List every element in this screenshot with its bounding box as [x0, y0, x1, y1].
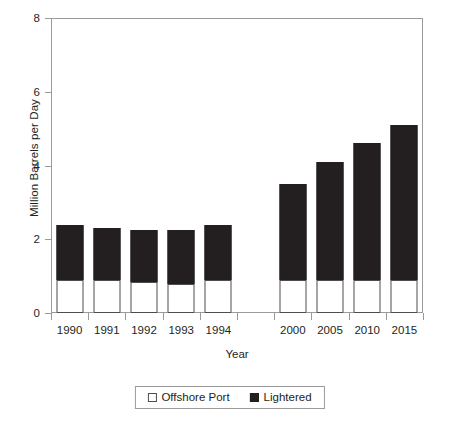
bar-segment-lightered [93, 228, 120, 280]
y-tick-label: 4 [0, 160, 40, 172]
bar-group [88, 18, 125, 313]
x-tick-label: 2015 [392, 324, 418, 336]
stacked-bar-chart: Million Barrels per Day 02468 1990199119… [0, 0, 459, 428]
bar-segment-offshore-port [316, 280, 343, 313]
bar-segment-offshore-port [279, 280, 306, 313]
bar-segment-lightered [391, 125, 418, 280]
bar-segment-lightered [279, 184, 306, 280]
bar-segment-offshore-port [130, 282, 157, 313]
x-tick-mark [311, 313, 312, 320]
bar-group [125, 18, 162, 313]
x-tick-mark [237, 313, 238, 320]
bar-group [349, 18, 386, 313]
x-tick-mark [386, 313, 387, 320]
open-square-icon [147, 393, 156, 402]
bar-group [386, 18, 423, 313]
chart-legend: Offshore PortLightered [134, 386, 324, 409]
filled-square-icon [250, 393, 259, 402]
bar-segment-offshore-port [354, 280, 381, 313]
bar-group [163, 18, 200, 313]
bar-segment-offshore-port [205, 280, 232, 313]
x-tick-mark [88, 313, 89, 320]
x-tick-label: 1990 [57, 324, 83, 336]
bar-segment-offshore-port [391, 280, 418, 313]
x-tick-label: 1994 [206, 324, 232, 336]
y-tick-label: 2 [0, 233, 40, 245]
y-tick-label: 8 [0, 12, 40, 24]
x-tick-label: 1992 [131, 324, 157, 336]
bar-segment-lightered [354, 143, 381, 279]
x-tick-label: 2000 [280, 324, 306, 336]
x-tick-mark [163, 313, 164, 320]
x-tick-label: 2010 [354, 324, 380, 336]
bar-segment-offshore-port [168, 284, 195, 314]
legend-item: Offshore Port [147, 391, 229, 403]
x-tick-mark [200, 313, 201, 320]
bar-group [311, 18, 348, 313]
bar-segment-lightered [316, 162, 343, 280]
bar-segment-offshore-port [56, 280, 83, 313]
x-tick-mark [274, 313, 275, 320]
y-tick-label: 0 [0, 307, 40, 319]
y-tick-label: 6 [0, 86, 40, 98]
x-tick-label: 1993 [168, 324, 194, 336]
y-axis-ticks: 02468 [0, 0, 51, 428]
bar-segment-lightered [168, 230, 195, 283]
legend-item-label: Offshore Port [161, 391, 229, 403]
bar-group [274, 18, 311, 313]
bar-group [200, 18, 237, 313]
x-tick-label: 2005 [317, 324, 343, 336]
legend-item-label: Lightered [264, 391, 312, 403]
x-tick-mark [51, 313, 52, 320]
x-tick-mark [423, 313, 424, 320]
bars-layer [51, 18, 423, 313]
x-tick-mark [125, 313, 126, 320]
bar-segment-lightered [130, 230, 157, 282]
legend-item: Lightered [250, 391, 312, 403]
bar-group [51, 18, 88, 313]
bar-segment-lightered [205, 225, 232, 280]
x-axis-title: Year [51, 348, 423, 360]
bar-segment-lightered [56, 225, 83, 280]
x-tick-label: 1991 [94, 324, 120, 336]
bar-segment-offshore-port [93, 280, 120, 313]
x-tick-mark [349, 313, 350, 320]
